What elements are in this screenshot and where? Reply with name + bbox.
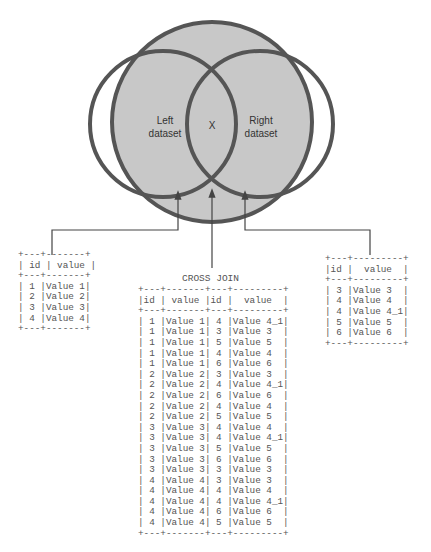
cross-join-table: +---+-------+---+---------+ |id | value … bbox=[138, 285, 289, 539]
cross-join-title: CROSS JOIN bbox=[182, 273, 239, 284]
right-dataset-table: +---+---------+ |id | value | +---+-----… bbox=[325, 254, 409, 349]
left-dataset-label: Left dataset bbox=[140, 114, 190, 140]
left-dataset-table: +---+-------+ | id | value | +---+------… bbox=[18, 250, 96, 335]
right-dataset-label: Right dataset bbox=[236, 114, 286, 140]
cross-join-symbol: X bbox=[205, 119, 219, 132]
